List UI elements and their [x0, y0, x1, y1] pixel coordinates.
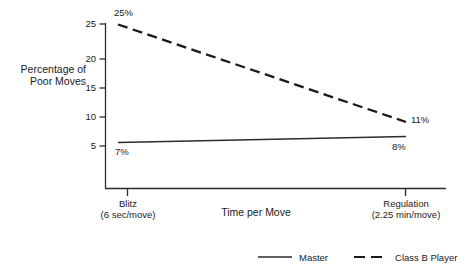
- x-axis-title: Time per Move: [196, 206, 316, 218]
- data-label-class-b-regulation: 11%: [411, 115, 429, 126]
- legend-label-master: Master: [299, 252, 328, 263]
- x-category-label-regulation: Regulation (2.25 min/move): [346, 199, 462, 221]
- legend-label-class-b-player: Class B Player: [395, 252, 457, 263]
- series-line-master: [118, 137, 406, 143]
- legend-item-master: Master: [258, 252, 328, 263]
- data-label-class-b-blitz: 25%: [114, 8, 133, 19]
- y-tick-label-10: 10: [74, 112, 96, 123]
- data-label-master-regulation: 8%: [392, 142, 406, 153]
- series-line-class-b-player: [118, 25, 406, 123]
- chart-legend: Master Class B Player: [258, 249, 457, 265]
- x-axis-ticks: [128, 189, 406, 197]
- legend-swatch-dashed-line-icon: [354, 253, 388, 261]
- x-category-regulation-sublabel: (2.25 min/move): [346, 210, 462, 221]
- y-tick-label-25: 25: [74, 19, 96, 30]
- y-axis-title: Percentage of Poor Moves: [2, 63, 86, 87]
- data-label-master-blitz: 7%: [115, 147, 129, 158]
- y-axis-title-line-2: Poor Moves: [2, 75, 86, 87]
- x-category-blitz-sublabel: (6 sec/move): [68, 210, 188, 221]
- y-axis-title-line-1: Percentage of: [2, 63, 86, 75]
- y-tick-label-5: 5: [74, 141, 96, 152]
- legend-item-class-b-player: Class B Player: [354, 252, 457, 263]
- x-category-label-blitz: Blitz (6 sec/move): [68, 199, 188, 221]
- y-axis-ticks: [100, 24, 106, 146]
- legend-swatch-solid-line-icon: [258, 253, 292, 261]
